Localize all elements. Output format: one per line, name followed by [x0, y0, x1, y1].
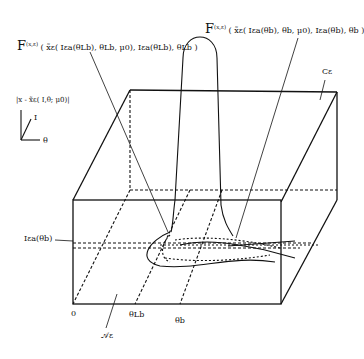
- theta-L-label: θLb: [129, 311, 144, 319]
- leader-lines: [55, 38, 325, 328]
- F-right-label: F(x,ε) ( x̃ε( Iεa(θb), θb, μ0), Iεa(θb),…: [205, 22, 364, 35]
- vertical-axis-label: |x - x̃ε( I,θ; μ0)|: [16, 97, 70, 104]
- level-label: Iεa(θb): [24, 235, 52, 243]
- manifold-label: Cε: [322, 68, 332, 76]
- theta-b-label: θb: [175, 317, 185, 325]
- box-hidden-edges: [73, 90, 337, 304]
- annulus-label: 𝒜ε: [101, 332, 113, 340]
- axis-I-label: I: [34, 114, 37, 122]
- box-solid-edges: [73, 90, 337, 304]
- loop-curve: [147, 37, 295, 267]
- F-left-label: F(x,ε) ( x̃ε( Iεa(θLb), θLb, μ0), Iεa(θL…: [17, 39, 198, 52]
- axis-theta-label: θ: [43, 137, 48, 145]
- origin-label: 0: [71, 310, 76, 318]
